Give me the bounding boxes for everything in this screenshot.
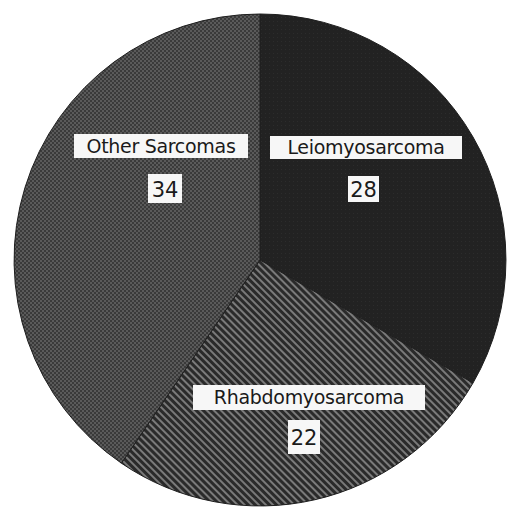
slice-value-other-sarcomas: 34 [152,178,179,202]
slice-label-other-sarcomas: Other Sarcomas [86,135,235,157]
slice-label-leiomyosarcoma: Leiomyosarcoma [287,136,444,158]
pie-chart: Other Sarcomas 34 Leiomyosarcoma 28 Rhab… [0,0,518,521]
slice-value-rhabdomyosarcoma: 22 [291,426,318,450]
pie-slices [14,14,506,506]
slice-value-leiomyosarcoma: 28 [350,178,377,202]
slice-label-rhabdomyosarcoma: Rhabdomyosarcoma [214,386,404,408]
